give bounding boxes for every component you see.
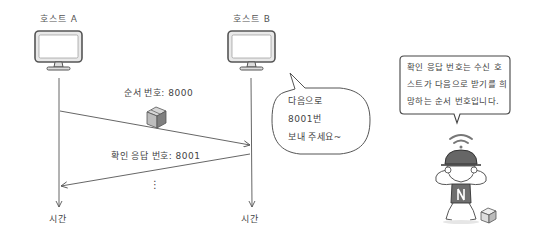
- time-label-host-b: 시간: [241, 212, 258, 225]
- host-a-title: 호스트 A: [40, 12, 78, 25]
- diagram-canvas: [0, 0, 541, 240]
- note-line: 스트가 다음으로 받기를 희: [407, 76, 507, 93]
- note-line: 망하는 순서 번호입니다.: [407, 93, 507, 110]
- speech-bubble-line: 8001번: [288, 110, 342, 128]
- monitor-icon-host-a: [35, 31, 82, 70]
- wifi-signal-icon: [450, 135, 472, 149]
- speech-bubble-line: 다음으로: [288, 92, 342, 110]
- ack-number-label: 확인 응답 번호: 8001: [111, 149, 201, 162]
- speech-bubble: 다음으로 8001번 보내 주세요~: [288, 92, 342, 146]
- seq-number-label: 순서 번호: 8000: [124, 86, 193, 99]
- continuation-dots: ⋮: [150, 180, 161, 190]
- host-b-title: 호스트 B: [233, 12, 271, 25]
- note-line: 확인 응답 번호는 수신 호: [407, 59, 507, 76]
- small-package-box-icon: [481, 208, 496, 223]
- time-label-host-a: 시간: [49, 212, 66, 225]
- monitor-icon-host-b: [228, 31, 275, 70]
- explanation-note: 확인 응답 번호는 수신 호 스트가 다음으로 받기를 희 망하는 순서 번호입…: [407, 59, 507, 110]
- package-box-icon: [147, 107, 166, 128]
- timeline-host-b: [251, 78, 252, 207]
- speech-bubble-line: 보내 주세요~: [288, 128, 342, 146]
- character-illustration: [436, 150, 487, 224]
